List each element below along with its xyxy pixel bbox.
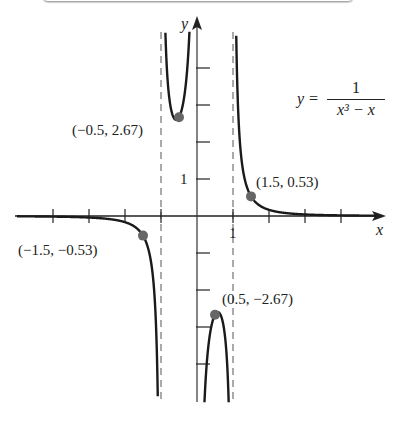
equation-denominator: x³ − x: [337, 100, 375, 119]
equation-label: y = 1 x³ − x: [297, 79, 385, 119]
curve-lower-middle-branch: [204, 312, 228, 402]
equation-numerator: 1: [327, 79, 385, 100]
point-label-left: (−1.5, −0.53): [18, 243, 97, 258]
data-point: [174, 112, 184, 122]
curve-upper-middle-branch: [165, 32, 189, 120]
y-tick-label-1: 1: [180, 172, 188, 187]
plot-area: [0, 0, 398, 421]
data-point: [246, 191, 256, 201]
data-point: [138, 231, 148, 241]
x-axis-label: x: [376, 222, 383, 238]
point-label-right: (1.5, 0.53): [256, 175, 319, 190]
equation-lhs: y =: [297, 90, 319, 108]
x-tick-label-1: 1: [229, 226, 237, 241]
point-label-local-max: (0.5, −2.67): [222, 292, 293, 307]
data-point: [210, 310, 220, 320]
point-label-local-min: (−0.5, 2.67): [72, 123, 143, 138]
y-axis-label: y: [181, 16, 188, 32]
chart-figure: y x 1 1 y = 1 x³ − x (−0.5, 2.67) (1.5, …: [0, 0, 398, 421]
